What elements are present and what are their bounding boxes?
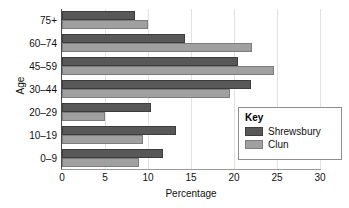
bar <box>62 66 274 75</box>
x-tick-label: 0 <box>47 172 77 183</box>
bar-group <box>62 11 320 29</box>
y-tick-label: 0–9 <box>5 153 57 164</box>
bar-group <box>62 80 320 98</box>
bar <box>62 158 139 167</box>
legend: Key ShrewsburyClun <box>238 107 342 160</box>
bar <box>62 135 143 144</box>
legend-item: Clun <box>245 139 341 150</box>
bar-group <box>62 34 320 52</box>
legend-label: Shrewsbury <box>268 126 321 137</box>
x-tick-label: 25 <box>262 172 292 183</box>
bar <box>62 20 148 29</box>
legend-item: Shrewsbury <box>245 126 341 137</box>
bar-chart: Age 0–910–1920–2930–4445–5960–7475+ 0510… <box>0 0 349 208</box>
bar <box>62 149 163 158</box>
bar-group <box>62 57 320 75</box>
bar <box>62 57 238 66</box>
bar <box>62 11 135 20</box>
y-tick-label: 20–29 <box>5 107 57 118</box>
legend-swatch <box>245 127 263 136</box>
legend-swatch <box>245 140 263 149</box>
y-tick-label: 30–44 <box>5 84 57 95</box>
y-tick-label: 10–19 <box>5 130 57 141</box>
x-tick-label: 15 <box>176 172 206 183</box>
bar <box>62 43 252 52</box>
x-axis-line <box>61 169 321 170</box>
bar <box>62 34 185 43</box>
legend-title: Key <box>245 112 341 124</box>
bar <box>62 126 176 135</box>
x-tick-label: 30 <box>305 172 335 183</box>
bar <box>62 103 151 112</box>
y-tick-label: 45–59 <box>5 61 57 72</box>
legend-label: Clun <box>268 139 289 150</box>
x-tick-label: 20 <box>219 172 249 183</box>
x-tick-label: 5 <box>90 172 120 183</box>
bar <box>62 89 230 98</box>
bar <box>62 112 105 121</box>
y-tick-label: 60–74 <box>5 38 57 49</box>
legend-items: ShrewsburyClun <box>245 126 341 150</box>
x-axis-title: Percentage <box>62 188 320 199</box>
bar <box>62 80 251 89</box>
x-tick-label: 10 <box>133 172 163 183</box>
y-tick-label: 75+ <box>5 15 57 26</box>
